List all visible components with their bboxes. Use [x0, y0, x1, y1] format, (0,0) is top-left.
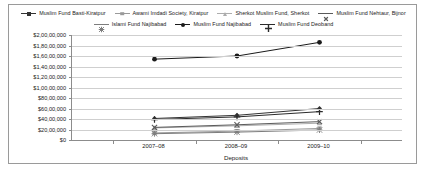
legend-marker-star-icon	[94, 21, 109, 28]
y-axis-tick-mark	[69, 56, 72, 57]
y-axis-tick-mark	[69, 98, 72, 99]
y-axis-tick-label: $60,00,000	[38, 106, 66, 112]
legend-item[interactable]: Muslim Fund Najibabad	[175, 20, 251, 29]
y-axis-tick-mark	[69, 88, 72, 89]
chart-legend: Muslim Fund Basti-KiratpurAwami Imdadi S…	[10, 6, 417, 31]
legend-glyph	[181, 23, 185, 27]
y-axis-tick-mark	[69, 35, 72, 36]
plot-wrapper: $2,00,00,000$1,80,00,000$1,60,00,000$1,4…	[9, 35, 416, 163]
y-axis-labels: $2,00,00,000$1,80,00,000$1,60,00,000$1,4…	[9, 35, 69, 140]
y-axis-tick-label: $1,20,00,000	[33, 74, 66, 80]
chart-figure: Muslim Fund Basti-KiratpurAwami Imdadi S…	[0, 0, 426, 178]
gridline	[72, 35, 402, 36]
legend-item-label: Muslim Fund Nehtaur, Bijnor	[336, 9, 405, 18]
legend-item-label: Awami Imdadi Society, Kiratpur	[133, 9, 209, 18]
data-point-circle	[317, 40, 322, 45]
legend-row-1: Muslim Fund Basti-KiratpurAwami Imdadi S…	[10, 9, 417, 18]
chart-frame: Muslim Fund Basti-KiratpurAwami Imdadi S…	[8, 4, 417, 164]
gridline	[72, 46, 402, 47]
legend-glyph	[265, 22, 271, 28]
legend-marker-plus-icon	[260, 21, 275, 28]
x-axis-title: Deposits	[71, 154, 401, 161]
data-point-star	[152, 131, 158, 137]
legend-item[interactable]: Awami Imdadi Society, Kiratpur	[115, 9, 209, 18]
x-axis-tick-label: 2009–10	[307, 143, 330, 149]
legend-item[interactable]: Muslim Fund Nehtaur, Bijnor	[318, 9, 405, 18]
y-axis-tick-mark	[69, 119, 72, 120]
y-axis-tick-mark	[69, 77, 72, 78]
legend-marker-diamond-icon	[21, 10, 36, 17]
legend-marker-circle-icon	[175, 21, 190, 28]
gridline	[72, 88, 402, 89]
y-axis-tick-label: $1,80,00,000	[33, 43, 66, 49]
legend-glyph	[120, 12, 124, 16]
legend-item[interactable]: Islami Fund Najibabad	[94, 20, 167, 29]
gridline	[72, 56, 402, 57]
legend-item-label: Muslim Fund Deoband	[278, 20, 333, 29]
legend-item-label: Muslim Fund Najibabad	[193, 20, 251, 29]
legend-item[interactable]: Muslim Fund Basti-Kiratpur	[21, 9, 105, 18]
legend-item[interactable]: Muslim Fund Deoband	[260, 20, 333, 29]
data-point-circle	[152, 57, 157, 62]
legend-row-2: Islami Fund NajibabadMuslim Fund Najibab…	[10, 20, 417, 29]
y-axis-tick-label: $20,00,000	[38, 127, 66, 133]
gridline	[72, 98, 402, 99]
gridline	[72, 119, 402, 120]
y-axis-tick-label: $2,00,00,000	[33, 32, 66, 38]
y-axis-tick-label: $80,00,000	[38, 95, 66, 101]
legend-glyph	[323, 11, 328, 16]
y-axis-tick-mark	[69, 130, 72, 131]
legend-item-label: Islami Fund Najibabad	[112, 20, 167, 29]
y-axis-tick-mark	[69, 140, 72, 141]
legend-glyph	[99, 22, 104, 27]
gridline	[72, 109, 402, 110]
x-axis-labels: 2007–082008–092009–10	[71, 143, 401, 153]
y-axis-tick-label: $1,00,00,000	[33, 85, 66, 91]
legend-item[interactable]: Sherkot Muslim Fund, Sherkot	[217, 9, 309, 18]
gridline	[72, 67, 402, 68]
legend-item-label: Sherkot Muslim Fund, Sherkot	[235, 9, 309, 18]
x-axis-tick-label: 2008–09	[225, 143, 248, 149]
x-axis-tick-label: 2007–08	[142, 143, 165, 149]
y-axis-tick-mark	[69, 67, 72, 68]
legend-glyph	[27, 12, 31, 16]
gridline	[72, 77, 402, 78]
legend-glyph	[223, 12, 227, 16]
y-axis-tick-label: $40,00,000	[38, 116, 66, 122]
legend-item-label: Muslim Fund Basti-Kiratpur	[39, 9, 105, 18]
gridline	[72, 130, 402, 131]
y-axis-tick-label: $1,60,00,000	[33, 53, 66, 59]
legend-marker-square-icon	[115, 10, 130, 17]
y-axis-tick-label: $0	[60, 137, 66, 143]
legend-marker-x-icon	[318, 10, 333, 17]
legend-marker-triangle-icon	[217, 10, 232, 17]
y-axis-tick-mark	[69, 109, 72, 110]
y-axis-tick-mark	[69, 46, 72, 47]
y-axis-tick-label: $1,40,00,000	[33, 64, 66, 70]
plot-area	[71, 35, 402, 141]
